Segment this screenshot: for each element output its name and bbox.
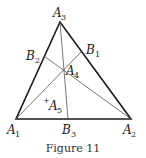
label-a1: A 1 — [6, 123, 20, 139]
label-b3: B 3 — [61, 123, 76, 139]
label-a5: + A 5 — [43, 96, 62, 115]
svg-text:B: B — [61, 123, 71, 137]
svg-text:3: 3 — [61, 13, 66, 22]
figure-11-diagram: A 3 B 2 B 1 A 4 + A 5 A 1 B 3 A 2 Figure… — [0, 0, 146, 158]
svg-text:B: B — [85, 43, 95, 57]
svg-text:4: 4 — [74, 71, 79, 80]
svg-text:1: 1 — [15, 130, 20, 139]
label-a3: A 3 — [52, 6, 66, 22]
svg-text:B: B — [25, 49, 35, 63]
label-a2: A 2 — [122, 123, 136, 139]
label-a4: A 4 — [65, 64, 79, 80]
label-b2: B 2 — [25, 49, 40, 65]
figure-caption: Figure 11 — [46, 142, 101, 155]
svg-text:2: 2 — [131, 130, 136, 139]
svg-text:2: 2 — [35, 56, 40, 65]
label-b1: B 1 — [85, 43, 100, 59]
svg-text:5: 5 — [57, 106, 62, 115]
svg-text:1: 1 — [95, 50, 100, 59]
svg-text:3: 3 — [71, 130, 76, 139]
